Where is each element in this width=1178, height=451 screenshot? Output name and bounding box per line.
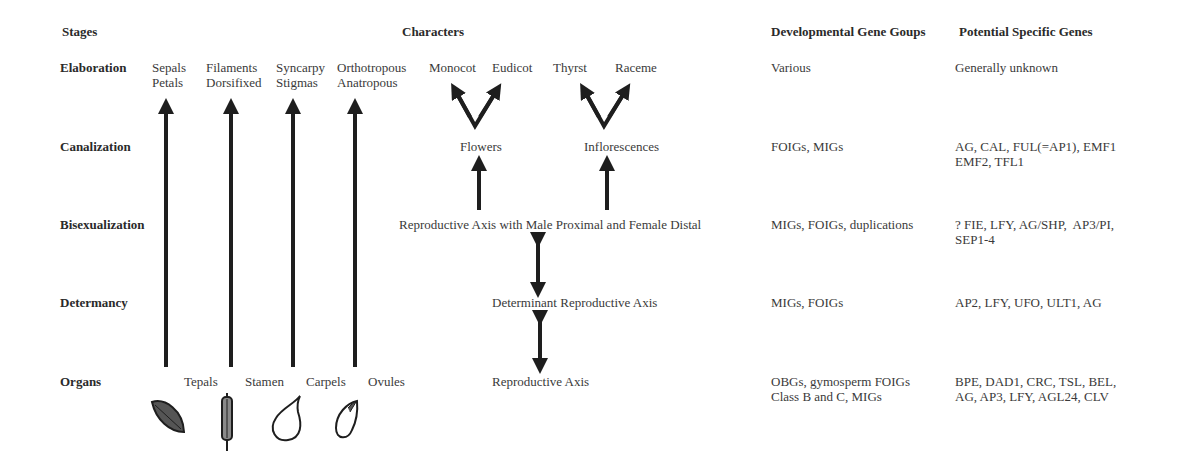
arrow-to-raceme [609, 90, 626, 117]
arrow-to-thyrst [584, 90, 599, 117]
tepal-leaf-icon [152, 401, 184, 432]
arrow-inflorescences-split [584, 90, 626, 126]
arrow-flowers-split [455, 90, 497, 126]
ovule-icon [336, 401, 357, 437]
stamen-icon [222, 393, 232, 451]
carpel-icon [273, 396, 301, 440]
arrow-to-monocot [455, 90, 470, 117]
diagram-arrows [0, 0, 1178, 451]
arrow-to-eudicot [480, 90, 497, 117]
